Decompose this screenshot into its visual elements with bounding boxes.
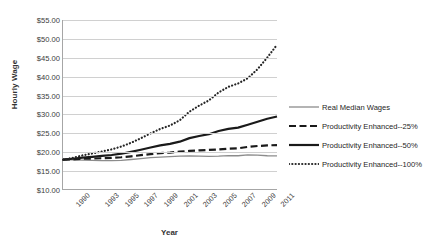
gridline	[63, 152, 277, 153]
y-tick-label: $50.00	[16, 34, 60, 43]
legend-item[interactable]: Productivity Enhanced--25%	[289, 118, 439, 134]
x-tick-label: 2003	[201, 191, 219, 209]
gridline	[63, 39, 277, 40]
series-line	[63, 45, 277, 160]
legend-label: Productivity Enhanced--100%	[322, 160, 422, 169]
legend-label: Productivity Enhanced--50%	[322, 141, 418, 150]
y-axis-tick-labels: $10.00$15.00$20.00$25.00$30.00$35.00$40.…	[16, 20, 60, 190]
legend-label: Productivity Enhanced--25%	[322, 122, 418, 131]
x-tick-label: 1995	[123, 191, 141, 209]
series-layer	[63, 20, 277, 189]
x-tick-label: 1990	[74, 191, 92, 209]
legend-label: Real Median Wages	[322, 103, 390, 112]
legend-swatch-icon	[289, 102, 319, 112]
gridline	[63, 20, 277, 21]
gridline	[63, 114, 277, 115]
legend-item[interactable]: Productivity Enhanced--100%	[289, 156, 439, 172]
legend-swatch-icon	[289, 159, 319, 169]
y-tick-label: $15.00	[16, 167, 60, 176]
y-tick-label: $20.00	[16, 148, 60, 157]
y-tick-label: $45.00	[16, 53, 60, 62]
legend-item[interactable]: Real Median Wages	[289, 99, 439, 115]
x-tick-label: 1993	[103, 191, 121, 209]
x-tick-label: 2001	[181, 191, 199, 209]
gridline	[63, 77, 277, 78]
y-tick-label: $40.00	[16, 72, 60, 81]
gridline	[63, 171, 277, 172]
chart-container: Hourly Wage $10.00$15.00$20.00$25.00$30.…	[0, 0, 440, 249]
legend-swatch-icon	[289, 140, 319, 150]
x-tick-label: 2007	[240, 191, 258, 209]
gridline	[63, 133, 277, 134]
legend-swatch-icon	[289, 121, 319, 131]
x-tick-label: 2005	[220, 191, 238, 209]
y-tick-label: $30.00	[16, 110, 60, 119]
x-axis-tick-labels: 1990199319951997199920012003200520072009…	[62, 191, 277, 225]
x-tick-label: 1999	[162, 191, 180, 209]
gridline	[63, 96, 277, 97]
plot-area	[62, 20, 277, 190]
legend-item[interactable]: Productivity Enhanced--50%	[289, 137, 439, 153]
y-tick-label: $55.00	[16, 16, 60, 25]
x-tick-label: 2011	[279, 191, 297, 209]
y-tick-label: $35.00	[16, 91, 60, 100]
chart-legend: Real Median WagesProductivity Enhanced--…	[289, 99, 439, 175]
x-axis-title: Year	[62, 228, 277, 237]
x-tick-label: 2009	[259, 191, 277, 209]
x-tick-label: 1997	[142, 191, 160, 209]
gridline	[63, 58, 277, 59]
y-tick-label: $25.00	[16, 129, 60, 138]
y-tick-label: $10.00	[16, 186, 60, 195]
